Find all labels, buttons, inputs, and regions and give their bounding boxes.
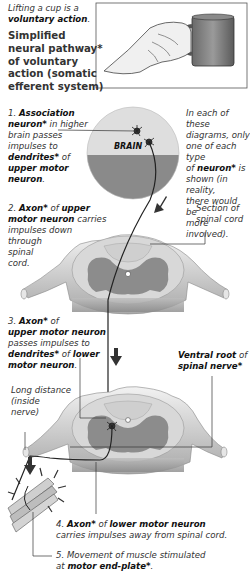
step-2-text: 2. Axon* of upper motor neuron carries i… — [8, 203, 106, 269]
hand-cup-illustration — [96, 3, 247, 88]
section-label: Section of spinal cord — [196, 203, 243, 225]
step-4-text: 4. Axon* of lower motor neuron carries i… — [56, 519, 227, 541]
step-3-text: 3. Axon* of upper motor neuron passes im… — [8, 316, 106, 371]
brain-label: BRAIN — [114, 142, 142, 151]
brain-circle — [80, 100, 190, 205]
page-title: Simplified neural pathway* of voluntary … — [8, 30, 104, 94]
long-distance-label: Long distance (inside nerve) — [11, 385, 71, 418]
step-5-text: 5. Movement of muscle stimulated at moto… — [56, 550, 205, 572]
ventral-root-label: Ventral root of spinal nerve* — [178, 350, 247, 372]
intro-text: Lifting a cup is a voluntary action. — [8, 3, 90, 25]
step-1-text: 1. Association neuron* in higher brain p… — [8, 108, 88, 185]
